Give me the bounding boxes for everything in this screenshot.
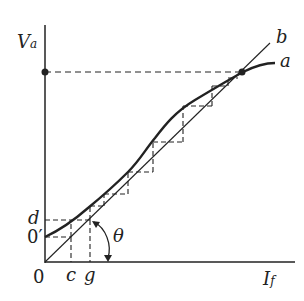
angle-theta-label: θ	[113, 227, 124, 245]
origin-label: 0	[33, 268, 44, 286]
y-axis-label: Va	[17, 33, 37, 51]
point-g-label: g	[84, 266, 96, 284]
point-d-label: d	[28, 209, 40, 227]
diagram-canvas: Va If 0 b a 0′ d c g θ	[0, 0, 304, 301]
point-c-label: c	[66, 266, 76, 284]
operating-point-axis-dot	[42, 69, 49, 76]
theta-arrow-bottom	[104, 255, 112, 262]
diagram-graphics	[0, 0, 304, 301]
residual-voltage-label: 0′	[27, 228, 43, 246]
curve-b-label: b	[276, 28, 288, 46]
curve-a-label: a	[280, 52, 291, 70]
x-axis-label: If	[263, 270, 275, 288]
operating-point-dot	[239, 69, 246, 76]
